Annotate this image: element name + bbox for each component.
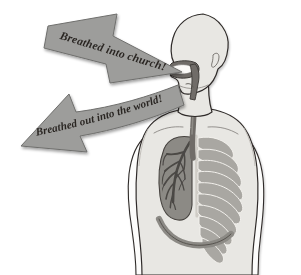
head — [170, 14, 228, 94]
human-figure — [128, 14, 264, 275]
lung — [159, 137, 192, 221]
sternum — [196, 136, 197, 216]
breathing-illustration: Breathed into church! Breathed out into … — [0, 0, 301, 275]
arrow-inhale: Breathed into church! — [44, 14, 182, 83]
